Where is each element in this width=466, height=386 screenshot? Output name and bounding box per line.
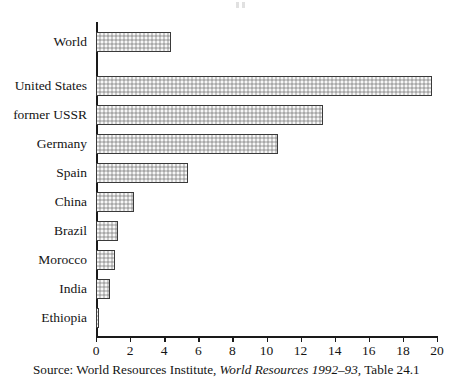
x-tick-label: 8 (229, 344, 236, 358)
bar (96, 221, 118, 241)
x-tick-mark (301, 336, 302, 342)
bar-row: former USSR (96, 105, 323, 125)
source-note: Source: World Resources Institute, World… (33, 362, 420, 378)
bar-row: Spain (96, 163, 188, 183)
x-tick-mark (96, 336, 97, 342)
bar-row: United States (96, 76, 432, 96)
bar-row: Ethiopia (96, 308, 99, 328)
source-suffix: , Table 24.1 (358, 362, 420, 377)
bar (96, 76, 432, 96)
x-tick-mark (267, 336, 268, 342)
bar-row: China (96, 192, 134, 212)
bar-category-label: Ethiopia (41, 311, 87, 325)
x-tick-label: 10 (260, 344, 274, 358)
x-tick-mark (437, 336, 438, 342)
bar-row: Germany (96, 134, 278, 154)
bar-row: Brazil (96, 221, 118, 241)
x-tick-mark (130, 336, 131, 342)
bar-category-label: former USSR (13, 108, 87, 122)
bar-category-label: World (54, 35, 87, 49)
x-tick-mark (198, 336, 199, 342)
x-tick-mark (369, 336, 370, 342)
x-tick-label: 16 (362, 344, 376, 358)
bar (96, 192, 134, 212)
bar (96, 308, 99, 328)
cropped-title-artifact (236, 2, 250, 8)
x-tick-mark (335, 336, 336, 342)
x-tick-label: 12 (294, 344, 308, 358)
bar-category-label: Brazil (54, 224, 87, 238)
source-publication-title: World Resources 1992–93 (220, 362, 358, 377)
x-tick-mark (164, 336, 165, 342)
bar-row: World (96, 32, 171, 52)
bar (96, 163, 188, 183)
bar (96, 32, 171, 52)
bar-category-label: Spain (56, 166, 87, 180)
bar (96, 134, 278, 154)
bar-category-label: United States (15, 79, 87, 93)
bar-category-label: India (59, 282, 87, 296)
x-tick-label: 0 (93, 344, 100, 358)
x-tick-mark (403, 336, 404, 342)
bar (96, 279, 110, 299)
x-tick-label: 4 (161, 344, 168, 358)
bar-chart-figure: WorldUnited Statesformer USSRGermanySpai… (0, 0, 466, 386)
source-prefix: Source: World Resources Institute, (33, 362, 220, 377)
x-tick-label: 2 (127, 344, 134, 358)
x-tick-label: 20 (430, 344, 444, 358)
bar-category-label: Morocco (38, 253, 87, 267)
bar (96, 105, 323, 125)
plot-area: WorldUnited Statesformer USSRGermanySpai… (96, 22, 437, 336)
x-tick-label: 6 (195, 344, 202, 358)
bar (96, 250, 115, 270)
x-tick-label: 14 (328, 344, 342, 358)
x-tick-label: 18 (396, 344, 410, 358)
x-tick-mark (232, 336, 233, 342)
bar-category-label: China (55, 195, 87, 209)
bar-row: Morocco (96, 250, 115, 270)
bar-row: India (96, 279, 110, 299)
bar-category-label: Germany (37, 137, 87, 151)
